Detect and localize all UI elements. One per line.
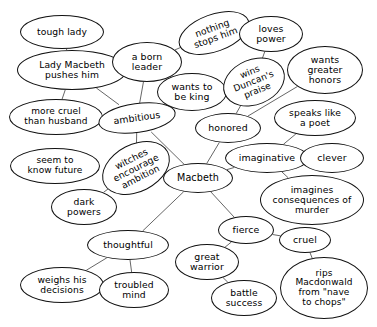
concept-node-label: a born leader (130, 52, 165, 72)
concept-node-great-warrior[interactable]: great warrior (175, 244, 239, 280)
concept-node-honored[interactable]: honored (195, 113, 261, 143)
concept-node-wants-greater[interactable]: wants greater honors (287, 46, 363, 94)
concept-node-speaks-poet[interactable]: speaks like a poet (274, 100, 356, 136)
concept-node-loves-power[interactable]: loves power (239, 16, 303, 52)
concept-node-label: honored (206, 123, 249, 133)
concept-node-imaginative[interactable]: imaginative (225, 143, 309, 173)
concept-node-fierce[interactable]: fierce (218, 216, 274, 244)
concept-node-wins-duncan[interactable]: wins Duncan's praise (216, 49, 293, 116)
concept-node-macbeth[interactable]: Macbeth (163, 163, 233, 193)
concept-node-rips-macdonwald[interactable]: rips Macdonwald from "nave to chops" (280, 257, 368, 319)
concept-node-label: more cruel than husband (22, 107, 89, 126)
concept-node-label: wants to be king (169, 82, 214, 102)
concept-node-cruel[interactable]: cruel (279, 227, 331, 253)
concept-node-label: battle success (224, 288, 265, 308)
concept-node-label: clever (315, 153, 348, 163)
concept-node-lady-macbeth[interactable]: Lady Macbeth pushes him (17, 50, 127, 90)
concept-node-more-cruel[interactable]: more cruel than husband (9, 99, 103, 135)
concept-node-label: Lady Macbeth pushes him (37, 60, 107, 80)
concept-node-label: weighs his decisions (35, 275, 88, 295)
concept-node-label: cruel (291, 235, 319, 245)
concept-node-label: speaks like a poet (287, 108, 343, 128)
node-layer: tough ladyLady Macbeth pushes himmore cr… (0, 0, 377, 327)
concept-node-label: Macbeth (175, 173, 221, 183)
concept-node-label: thoughtful (101, 240, 155, 250)
concept-node-label: great warrior (188, 252, 226, 272)
concept-node-weighs-decisions[interactable]: weighs his decisions (20, 267, 104, 303)
concept-map: tough ladyLady Macbeth pushes himmore cr… (0, 0, 377, 327)
concept-node-label: wants greater honors (305, 55, 344, 85)
concept-node-label: wins Duncan's praise (227, 60, 281, 104)
concept-node-label: fierce (231, 225, 262, 235)
concept-node-clever[interactable]: clever (300, 143, 364, 173)
concept-node-thoughtful[interactable]: thoughtful (87, 230, 169, 260)
concept-node-battle-success[interactable]: battle success (211, 280, 277, 316)
concept-node-tough-lady[interactable]: tough lady (20, 15, 104, 49)
concept-node-label: tough lady (35, 27, 89, 37)
concept-node-dark-powers[interactable]: dark powers (51, 189, 117, 225)
concept-node-label: witches encourage ambition (105, 143, 166, 194)
concept-node-troubled-mind[interactable]: troubled mind (99, 272, 169, 308)
concept-node-label: imagines consequences of murder (271, 185, 354, 215)
concept-node-imagines-conseq[interactable]: imagines consequences of murder (260, 175, 364, 225)
concept-node-label: loves power (254, 24, 287, 44)
concept-node-label: rips Macdonwald from "nave to chops" (293, 269, 354, 308)
concept-node-label: ambitious (111, 109, 163, 126)
concept-node-wants-to-be-king[interactable]: wants to be king (157, 73, 227, 111)
concept-node-label: imaginative (237, 153, 297, 163)
concept-node-label: troubled mind (112, 280, 155, 300)
concept-node-seem-know-future[interactable]: seem to know future (10, 148, 100, 184)
concept-node-label: dark powers (65, 197, 103, 217)
concept-node-label: nothing stops him (187, 15, 241, 51)
concept-node-label: seem to know future (26, 156, 85, 175)
